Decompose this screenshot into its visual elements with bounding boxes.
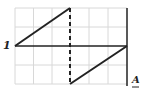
waveform-diagram <box>0 0 142 98</box>
left-label: 1 <box>3 40 11 51</box>
right-label: A <box>132 75 140 85</box>
